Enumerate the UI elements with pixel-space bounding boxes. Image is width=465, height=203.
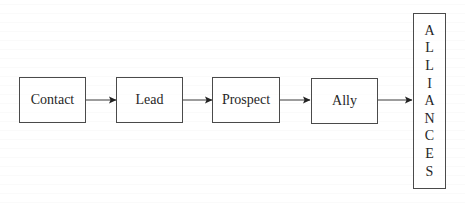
node-ally-label: Ally xyxy=(332,93,357,109)
node-lead-label: Lead xyxy=(136,92,164,108)
node-prospect-label: Prospect xyxy=(222,92,270,108)
alliances-letter: A xyxy=(424,22,434,40)
alliances-letter: S xyxy=(426,163,434,181)
alliances-letter: E xyxy=(425,145,434,163)
node-ally: Ally xyxy=(311,78,378,124)
alliances-letter: L xyxy=(425,57,434,75)
alliances-letter: C xyxy=(425,127,434,145)
node-prospect: Prospect xyxy=(212,77,280,123)
alliances-letter: A xyxy=(424,92,434,110)
node-lead: Lead xyxy=(116,77,183,123)
node-contact: Contact xyxy=(19,77,86,123)
node-contact-label: Contact xyxy=(31,92,75,108)
node-alliances: A L L I A N C E S xyxy=(413,13,446,189)
alliances-letter: L xyxy=(425,39,434,57)
alliances-letter: N xyxy=(424,110,434,128)
alliances-letter: I xyxy=(427,75,432,93)
